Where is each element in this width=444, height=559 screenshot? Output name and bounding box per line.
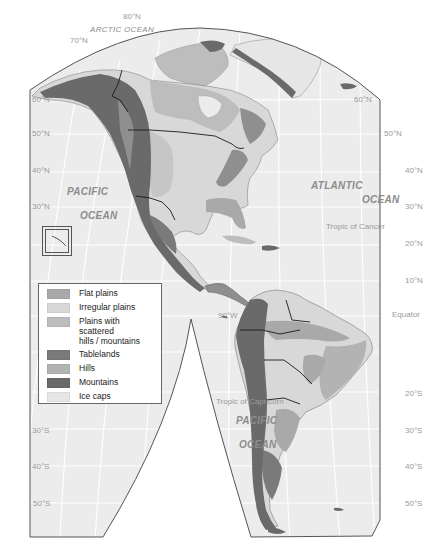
legend-label: Tablelands <box>79 349 120 359</box>
label-lat-left-50s: 50°S <box>33 500 50 508</box>
label-tropic-of-capricorn: Tropic of Capricorn <box>216 398 284 406</box>
label-lat-right-60n: 60°N <box>354 96 372 104</box>
legend-item-mountains: Mountains <box>47 377 155 388</box>
legend: Flat plains Irregular plains Plains with… <box>38 283 162 404</box>
label-lat-right-40s: 40°S <box>405 463 422 471</box>
hawaii-inset-inner <box>45 229 69 253</box>
legend-item-hills: Hills <box>47 363 155 374</box>
swatch-ice-caps <box>47 392 70 402</box>
label-lat-left-50n: 50°N <box>32 130 50 138</box>
label-atlantic-2: OCEAN <box>362 195 400 205</box>
label-pacific-south-1: PACIFIC <box>236 416 277 426</box>
legend-label-line1: Plains with scattered <box>79 316 120 336</box>
label-lat-right-20n: 20°N <box>405 240 423 248</box>
legend-label: Flat plains <box>79 288 118 298</box>
swatch-flat-plains <box>47 289 70 299</box>
swatch-mountains <box>47 378 70 388</box>
legend-label-line2: hills / mountains <box>79 336 140 346</box>
swatch-plains-scattered <box>47 317 70 327</box>
legend-item-plains-scattered: Plains with scattered hills / mountains <box>47 316 155 346</box>
legend-label: Irregular plains <box>79 302 135 312</box>
label-lat-right-20s: 20°S <box>405 390 422 398</box>
label-lat-right-50s: 50°S <box>405 500 422 508</box>
legend-item-ice-caps: Ice caps <box>47 391 155 402</box>
swatch-tablelands <box>47 350 70 360</box>
legend-label: Plains with scattered hills / mountains <box>79 316 155 346</box>
label-tropic-of-cancer: Tropic of Cancer <box>326 223 385 231</box>
label-lat-right-40n: 40°N <box>405 167 423 175</box>
legend-label: Ice caps <box>79 391 111 401</box>
label-lat-80n: 80°N <box>123 13 141 21</box>
label-pacific-south-2: OCEAN <box>239 440 277 450</box>
map-canvas <box>0 0 444 559</box>
hawaii-inset <box>42 226 72 256</box>
swatch-hills <box>47 364 70 374</box>
label-atlantic-1: ATLANTIC <box>311 181 363 191</box>
label-lat-left-40n: 40°N <box>32 167 50 175</box>
legend-item-flat-plains: Flat plains <box>47 288 155 299</box>
label-lat-right-10n: 10°N <box>405 277 423 285</box>
label-lat-left-60n: 60°N <box>32 96 50 104</box>
legend-label: Mountains <box>79 377 118 387</box>
label-lat-right-50n: 50°N <box>384 130 402 138</box>
label-equator: Equator <box>392 311 420 319</box>
swatch-irregular-plains <box>47 303 70 313</box>
label-90w: 90°W <box>218 312 238 320</box>
label-lat-right-30s: 30°S <box>405 427 422 435</box>
legend-label: Hills <box>79 363 95 373</box>
label-lat-right-30n: 30°N <box>405 203 423 211</box>
label-pacific-north-1: PACIFIC <box>67 187 108 197</box>
label-lat-left-30n: 30°N <box>32 203 50 211</box>
label-lat-left-30s: 30°S <box>32 427 49 435</box>
legend-item-irregular-plains: Irregular plains <box>47 302 155 313</box>
label-lat-70n: 70°N <box>70 37 88 45</box>
label-arctic-ocean: ARCTIC OCEAN <box>90 26 154 34</box>
label-lat-left-40s: 40°S <box>32 463 49 471</box>
label-pacific-north-2: OCEAN <box>80 211 118 221</box>
legend-item-tablelands: Tablelands <box>47 349 155 360</box>
